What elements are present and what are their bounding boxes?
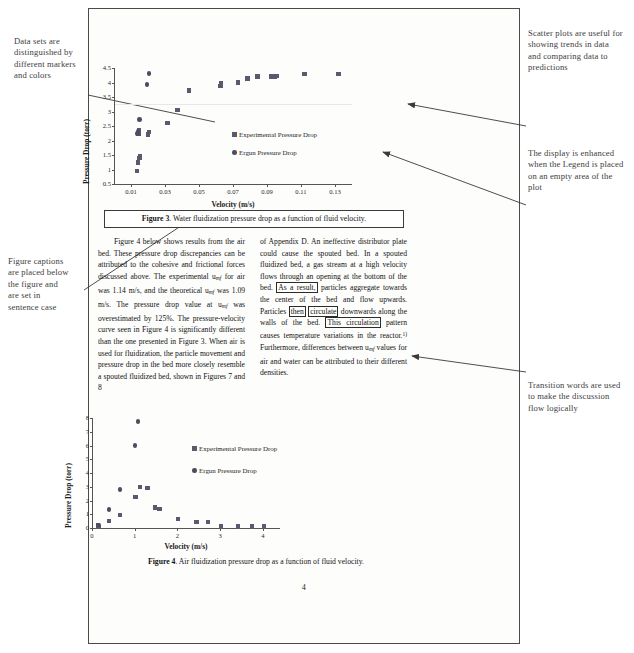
chart-y-tick-label: 5	[67, 455, 89, 462]
figure-4-caption-text: . Air fluidization pressure drop as a fu…	[175, 557, 364, 566]
chart-y-tick-mark	[112, 112, 115, 113]
annotation-legend-placement: The display is enhanced when the Legend …	[528, 148, 624, 194]
chart-data-point-experimental	[336, 72, 341, 77]
figure-4-caption-label: Figure 4	[148, 557, 175, 566]
chart-y-tick-mark	[112, 184, 115, 185]
chart-x-tick-label: 3	[206, 532, 234, 539]
chart-x-tick-label: 1	[121, 532, 149, 539]
chart2-x-axis-title: Velocity (m/s)	[92, 542, 280, 551]
chart-y-tick-label: 2	[67, 497, 89, 504]
chart-data-point-experimental	[187, 88, 192, 93]
chart-data-point-experimental	[274, 74, 279, 79]
chart-y-tick-label: 8	[67, 414, 89, 421]
chart-data-point-experimental	[136, 160, 141, 165]
chart-data-point-experimental	[255, 74, 260, 79]
figure-3-caption-text: . Water fluidization pressure drop as a …	[169, 214, 366, 223]
annotation-scatter-plots: Scatter plots are useful for showing tre…	[528, 28, 624, 74]
legend-label: Experimental Pressure Drop	[199, 445, 277, 452]
chart-data-point-experimental	[118, 513, 122, 517]
annotation-transition-words: Transition words are used to make the di…	[528, 380, 624, 414]
right-text-e: Furthermore, differences between u	[260, 343, 369, 352]
chart-data-point-experimental	[219, 81, 224, 86]
figure-3-caption: Figure 3. Water fluidization pressure dr…	[104, 210, 404, 228]
chart-y-tick-label: 7	[67, 428, 89, 435]
body-paragraph-left: Figure 4 below shows results from the ai…	[98, 236, 245, 394]
left-text-d: was overestimated by 125%. The pressure-…	[98, 300, 245, 393]
chart-y-tick-label: 1	[67, 510, 89, 517]
chart-y-tick-label: 2.5	[89, 122, 111, 129]
legend-label: Experimental Pressure Drop	[239, 131, 317, 138]
highlight-circulate: circulate	[308, 306, 338, 317]
chart-x-tick-mark	[233, 184, 234, 187]
body-column-left: Figure 4 below shows results from the ai…	[98, 236, 245, 394]
chart-y-tick-mark	[112, 155, 115, 156]
chart-x-tick-label: 0.01	[117, 188, 145, 195]
chart-data-point-experimental	[147, 130, 152, 135]
chart-x-tick-mark	[335, 184, 336, 187]
chart-x-tick-label: 0.09	[253, 188, 281, 195]
chart-y-tick-mark	[90, 446, 93, 447]
chart1-plot-area: 0.511.522.533.544.50.010.030.050.070.090…	[114, 68, 352, 184]
chart-data-point-ergun	[118, 487, 122, 491]
chart-data-point-experimental	[236, 80, 241, 85]
chart-x-tick-label: 0.11	[287, 188, 315, 195]
chart-y-tick-label: 3.5	[89, 93, 111, 100]
chart-y-tick-label: 0.5	[89, 180, 111, 187]
chart-data-point-experimental	[250, 524, 254, 528]
chart-y-tick-mark	[90, 459, 93, 460]
chart-data-point-experimental	[138, 485, 142, 489]
chart-data-point-ergun	[136, 129, 141, 134]
chart-legend-entry: Experimental Pressure Drop	[192, 444, 277, 452]
chart-y-tick-label: 4	[89, 79, 111, 86]
chart-data-point-experimental	[175, 108, 180, 113]
chart-data-point-ergun	[136, 419, 140, 423]
figure-3-caption-label: Figure 3	[142, 214, 169, 223]
legend-label: Ergun Pressure Drop	[199, 467, 257, 474]
legend-label: Ergun Pressure Drop	[239, 149, 297, 156]
figure-3-scatter-chart: Pressure Drop (torr) Velocity (m/s) 0.51…	[72, 62, 372, 210]
chart-y-tick-mark	[90, 432, 93, 433]
annotation-figure-captions: Figure captions are placed below the fig…	[8, 256, 70, 313]
highlight-as-a-result: As a result,	[276, 282, 317, 293]
chart-x-tick-mark	[267, 184, 268, 187]
chart-data-point-experimental	[165, 121, 170, 126]
chart-y-tick-mark	[90, 487, 93, 488]
figure-4-caption: Figure 4. Air fluidization pressure drop…	[96, 557, 416, 567]
chart-y-tick-mark	[90, 418, 93, 419]
chart-x-tick-label: 0.03	[151, 188, 179, 195]
chart-y-tick-label: 1	[89, 166, 111, 173]
chart-data-point-experimental	[302, 72, 307, 77]
chart-x-tick-mark	[135, 528, 136, 531]
chart-y-tick-mark	[112, 170, 115, 171]
chart-data-point-experimental	[157, 507, 161, 511]
chart-data-point-ergun	[96, 523, 100, 527]
chart-x-tick-mark	[92, 528, 93, 531]
chart-y-tick-mark	[112, 68, 115, 69]
figure-4-scatter-chart: Pressure Drop (torr) Velocity (m/s) 0123…	[58, 412, 308, 560]
chart-y-tick-label: 3	[89, 108, 111, 115]
chart-y-tick-label: 3	[67, 483, 89, 490]
chart-y-tick-label: 6	[67, 442, 89, 449]
chart-data-point-experimental	[245, 76, 250, 81]
chart-data-point-experimental	[138, 154, 143, 159]
chart-x-tick-label: 0.05	[185, 188, 213, 195]
chart-x-tick-label: 4	[249, 532, 277, 539]
chart-y-tick-label: 4	[67, 469, 89, 476]
chart-legend-entry: Experimental Pressure Drop	[232, 130, 317, 138]
chart2-plot-area: 01234567801234Experimental Pressure Drop…	[92, 418, 280, 528]
chart-y-tick-mark	[90, 501, 93, 502]
chart-x-tick-label: 2	[163, 532, 191, 539]
chart-x-tick-mark	[131, 184, 132, 187]
chart-y-tick-mark	[90, 514, 93, 515]
legend-swatch-ergun-icon	[232, 150, 237, 155]
chart-data-point-experimental	[107, 519, 111, 523]
chart1-x-axis-title: Velocity (m/s)	[114, 200, 352, 209]
chart-x-tick-label: 0.07	[219, 188, 247, 195]
citation-superscript: 1)	[403, 331, 408, 337]
highlight-this-circulation: This circulation	[325, 317, 380, 328]
chart-y-tick-mark	[112, 97, 115, 98]
body-column-right: of Appendix D. An ineffective distributo…	[260, 236, 407, 379]
chart-data-point-experimental	[176, 517, 180, 521]
legend-swatch-ergun-icon	[192, 468, 197, 473]
chart-x-tick-mark	[165, 184, 166, 187]
